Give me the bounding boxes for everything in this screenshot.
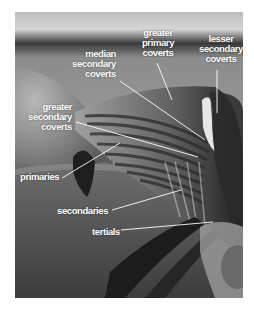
- label-lesser-secondary-coverts: lesser secondary coverts: [196, 34, 246, 64]
- label-median-secondary-coverts: median secondary coverts: [70, 49, 116, 79]
- label-line: coverts: [70, 69, 116, 79]
- label-greater-primary-coverts: greater primary coverts: [138, 28, 178, 58]
- label-primaries: primaries: [20, 172, 59, 182]
- label-line: coverts: [196, 54, 246, 64]
- label-secondaries: secondaries: [57, 206, 108, 216]
- label-line: coverts: [138, 48, 178, 58]
- label-line: coverts: [26, 122, 72, 132]
- label-greater-secondary-coverts: greater secondary coverts: [26, 102, 72, 132]
- label-tertials: tertials: [92, 227, 120, 237]
